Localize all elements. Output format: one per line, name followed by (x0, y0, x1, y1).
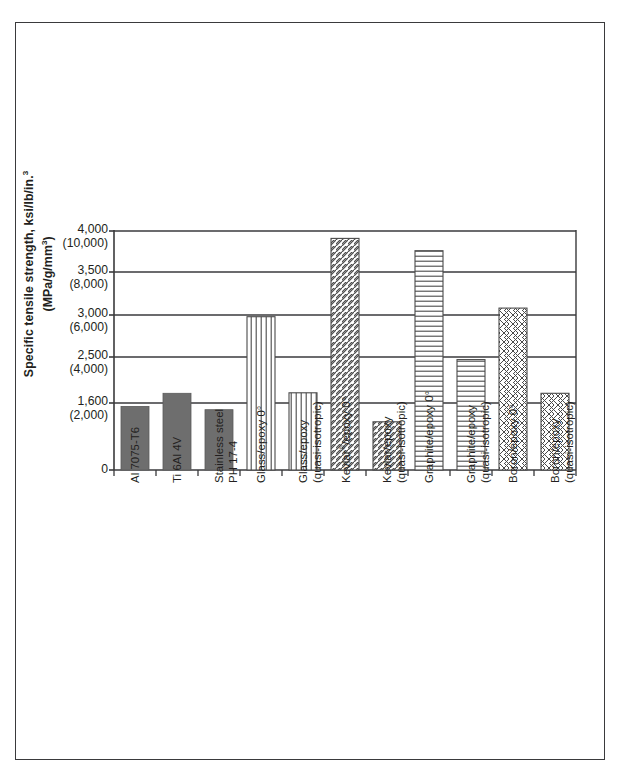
x-axis-label-8-line2: (quasi-isotropic) (479, 401, 491, 483)
registered-trademark-icon: ® (338, 445, 347, 451)
bar-chart (0, 0, 620, 778)
x-axis-label-7-line1: Graphite/epoxy 0° (423, 391, 435, 483)
x-axis-label-6: Kevlar/epoxy(quasi-isotropic) (380, 401, 409, 483)
x-axis-label-3-line1: Glass/epoxy 0° (255, 406, 267, 483)
x-axis-label-0-line1: Al 7075-T6 (129, 427, 141, 483)
x-axis-label-1-line1: Ti 6Al 4V (171, 437, 183, 483)
x-axis-label-9-line1: Boron/epoxy 0° (507, 404, 519, 483)
x-axis-label-6-line2: (quasi-isotropic) (395, 401, 407, 483)
x-axis-label-0: Al 7075-T6 (128, 427, 142, 483)
x-axis-label-10-line2: (quasi-isotropic) (563, 401, 575, 483)
x-axis-label-5-line1: Kevlar®/epoxy 0° (340, 397, 352, 483)
x-axis-label-2: Stainless steelPH 17-4 (212, 409, 241, 483)
x-axis-label-10: Boron/epoxy(quasi-isotropic) (548, 401, 577, 483)
x-axis-label-9: Boron/epoxy 0° (506, 404, 520, 483)
x-axis-label-4-line1: Glass/epoxy (297, 420, 309, 483)
x-axis-label-4: Glass/epoxy(quasi-isotropic) (296, 401, 325, 483)
x-axis-label-8: Graphite/epoxy(quasi-isotropic) (464, 401, 493, 483)
x-axis-label-2-line1: Stainless steel (213, 409, 225, 483)
x-axis-label-8-line1: Graphite/epoxy (465, 405, 477, 483)
x-axis-label-4-line2: (quasi-isotropic) (311, 401, 323, 483)
x-axis-label-1: Ti 6Al 4V (170, 437, 184, 483)
x-axis-label-6-line1: Kevlar/epoxy (381, 417, 393, 483)
x-axis-label-7: Graphite/epoxy 0° (422, 391, 436, 483)
x-axis-label-3: Glass/epoxy 0° (254, 406, 268, 483)
x-axis-label-5: Kevlar®/epoxy 0° (338, 397, 353, 483)
x-axis-label-10-line1: Boron/epoxy (549, 418, 561, 483)
x-axis-label-2-line2: PH 17-4 (227, 441, 239, 483)
